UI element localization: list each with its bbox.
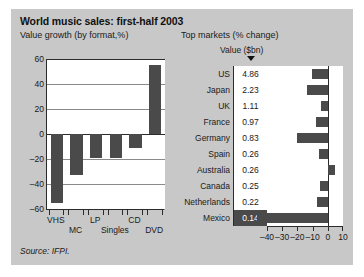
right-x-tick-label: 10 [338, 232, 347, 242]
left-category-label: Singles [101, 225, 129, 235]
market-bar [321, 101, 328, 111]
market-bar-row [267, 66, 343, 82]
right-x-tick [267, 227, 268, 231]
right-x-tick-label: 0 [325, 232, 330, 242]
right-x-tick-label: –20 [290, 232, 304, 242]
market-name: Spain [174, 146, 233, 162]
left-x-tick [88, 210, 89, 215]
left-x-tick [147, 210, 148, 215]
market-bar-row [267, 82, 343, 98]
left-category-label: VHS [47, 215, 64, 225]
right-x-tick [328, 227, 329, 231]
value-column-header: Value ($bn) [220, 45, 263, 55]
left-chart-subtitle: Value growth (by format,%) [20, 30, 128, 40]
right-chart-subtitle: Top markets (% change) [181, 30, 279, 40]
market-name-column: USJapanUKFranceGermanySpainAustraliaCana… [174, 66, 233, 226]
market-value: 0.97 [234, 114, 267, 130]
market-value: 4.86 [234, 66, 267, 82]
left-gridline: –40 [47, 184, 165, 185]
left-y-tick-label: 0 [39, 129, 44, 139]
market-bar-row [267, 194, 343, 210]
right-plot-area [267, 66, 343, 226]
right-x-tick [313, 227, 314, 231]
market-bar [307, 85, 328, 95]
figure-panel: World music sales: first-half 2003 Value… [11, 9, 353, 265]
market-name: US [174, 66, 233, 82]
market-bar [312, 69, 328, 79]
market-name: France [174, 114, 233, 130]
left-x-tick [68, 210, 69, 215]
market-bar-row [267, 98, 343, 114]
left-gridline: 20 [47, 109, 165, 110]
left-bar [90, 134, 102, 158]
right-x-tick-label: –40 [260, 232, 274, 242]
right-x-tick [342, 227, 343, 231]
left-y-tick-label: 20 [35, 104, 44, 114]
right-x-tick-label: –10 [306, 232, 320, 242]
chart-title: World music sales: first-half 2003 [20, 15, 183, 27]
left-gridline: –20 [47, 159, 165, 160]
value-growth-by-format-chart: –60–40–200204060 VHSMCLPSinglesCDDVD [20, 56, 172, 236]
market-value-column: 4.862.231.110.970.830.260.260.250.220.14 [233, 66, 268, 226]
top-markets-chart: USJapanUKFranceGermanySpainAustraliaCana… [174, 56, 346, 236]
left-y-tick-label: 60 [35, 54, 44, 64]
market-value: 0.25 [234, 178, 267, 194]
market-bar [328, 165, 336, 175]
right-x-axis: –40–30–20–10010 [267, 226, 343, 232]
left-y-tick-label: –40 [30, 179, 44, 189]
market-name: Mexico [174, 210, 233, 226]
market-bar-row [267, 114, 343, 130]
market-bar [319, 149, 328, 159]
market-name: Germany [174, 130, 233, 146]
market-value: 0.83 [234, 130, 267, 146]
market-name: Australia [174, 162, 233, 178]
left-gridline: 0 [47, 134, 165, 135]
left-x-tick [122, 210, 123, 215]
left-category-label: MC [69, 225, 82, 235]
source-note: Source: IFPI. [20, 246, 70, 256]
market-bar-row [267, 130, 343, 146]
right-x-tick-label: –30 [275, 232, 289, 242]
market-bar-row [267, 162, 343, 178]
left-x-tick [108, 210, 109, 215]
market-bar [297, 133, 328, 143]
market-name: Canada [174, 178, 233, 194]
market-value: 0.26 [234, 162, 267, 178]
market-bar-row [267, 146, 343, 162]
market-bar [320, 181, 328, 191]
left-category-label: LP [90, 215, 100, 225]
market-value: 1.11 [234, 98, 267, 114]
left-bar [110, 134, 122, 158]
left-category-label: DVD [145, 225, 163, 235]
market-bar-row [267, 210, 343, 226]
left-category-label: CD [128, 215, 140, 225]
market-bar-row [267, 178, 343, 194]
right-x-tick [282, 227, 283, 231]
left-x-tick [103, 210, 104, 215]
left-bar [70, 134, 82, 175]
left-x-tick [142, 210, 143, 215]
right-x-tick [297, 227, 298, 231]
market-name: Japan [174, 82, 233, 98]
left-y-tick-label: –20 [30, 154, 44, 164]
market-value: 0.26 [234, 146, 267, 162]
market-name: Netherlands [174, 194, 233, 210]
market-bar [317, 197, 328, 207]
left-bar [149, 65, 161, 134]
market-name: UK [174, 98, 233, 114]
mexico-bar-overflow [257, 213, 267, 223]
left-y-tick-label: –60 [30, 204, 44, 214]
market-bar [267, 213, 328, 223]
left-bar [51, 134, 63, 203]
left-gridline: 40 [47, 84, 165, 85]
left-gridline: 60 [47, 59, 165, 60]
left-x-tick [83, 210, 84, 215]
left-y-tick-label: 40 [35, 79, 44, 89]
market-bar [316, 117, 328, 127]
left-bar [129, 134, 141, 148]
market-value: 2.23 [234, 82, 267, 98]
market-value: 0.22 [234, 194, 267, 210]
left-plot-area: –60–40–200204060 [46, 59, 165, 209]
left-x-tick [162, 210, 163, 215]
